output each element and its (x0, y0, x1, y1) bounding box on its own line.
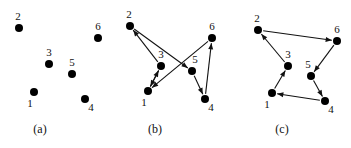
panel-a-node-label-6: 6 (95, 20, 101, 32)
panel-b-node-3 (157, 62, 165, 70)
panel-a-node-2 (15, 24, 23, 32)
panel-c-node-label-2: 2 (254, 12, 260, 24)
panel-b-node-label-2: 2 (126, 8, 132, 20)
panel-a-node-1 (30, 88, 38, 96)
arrowhead-5-to-4 (198, 88, 203, 95)
panel-b-node-label-3: 3 (158, 48, 164, 60)
panel-a-node-5 (68, 70, 76, 78)
figure-three-panel-graph: 123456123456123456 (a)(b)(c) (0, 0, 351, 148)
arrowhead-6-to-5 (314, 65, 320, 71)
panel-a-node-label-2: 2 (15, 10, 21, 22)
panel-a-node-label-5: 5 (69, 56, 75, 68)
panel-c-caption: (c) (262, 122, 302, 137)
panel-b-node-label-1: 1 (141, 96, 147, 108)
panel-a-node-6 (94, 34, 102, 42)
arrowhead-4-to-1 (277, 92, 284, 97)
panel-a-caption: (a) (20, 122, 60, 137)
panel-c-node-label-1: 1 (264, 98, 270, 110)
arrowhead-2-to-6 (325, 37, 331, 42)
panel-a-node-label-3: 3 (46, 46, 52, 58)
panel-b-node-label-6: 6 (209, 20, 215, 32)
panel-c-node-1 (268, 89, 276, 97)
panel-c-node-6 (333, 37, 341, 45)
panel-b-node-1 (144, 87, 152, 95)
panel-b-node-5 (188, 67, 196, 75)
arrowhead-4-to-6 (208, 43, 213, 49)
panel-b-node-label-5: 5 (192, 53, 198, 65)
panel-c-node-label-6: 6 (334, 23, 340, 35)
panel-b-caption: (b) (135, 122, 175, 137)
edge-4-to-1 (277, 94, 320, 100)
arrowhead-1-to-3 (280, 70, 285, 77)
edge-4-to-6 (206, 43, 212, 94)
panel-b-node-2 (126, 22, 134, 30)
panel-b-node-6 (208, 34, 216, 42)
edge-2-to-6 (263, 31, 332, 41)
panel-c-node-label-3: 3 (285, 48, 291, 60)
panel-c-node-3 (284, 62, 292, 70)
panel-c-node-2 (254, 26, 262, 34)
panel-b: 123456 (126, 8, 216, 113)
panel-c: 123456 (254, 12, 341, 115)
panel-a-node-label-4: 4 (88, 101, 94, 113)
panel-b-node-label-4: 4 (208, 101, 214, 113)
panel-c-node-label-5: 5 (305, 58, 311, 70)
panel-a: 123456 (15, 10, 102, 113)
panel-c-node-5 (307, 72, 315, 80)
panel-a-node-label-1: 1 (27, 97, 33, 109)
arrowhead-5-to-4 (317, 90, 322, 97)
panel-a-node-3 (45, 60, 53, 68)
panel-c-node-label-4: 4 (328, 103, 334, 115)
